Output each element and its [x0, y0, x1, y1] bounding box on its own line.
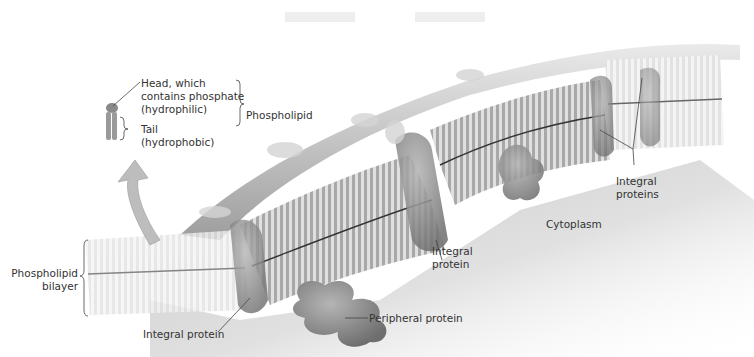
top-smudge	[285, 12, 355, 22]
curved-arrow-icon	[118, 160, 160, 245]
integral-proteins-right-leader-c	[633, 149, 634, 165]
bilayer-left	[85, 230, 250, 315]
label-head: Head, which contains phosphate (hydrophi…	[141, 77, 244, 116]
label-integral-protein-middle: Integral protein	[432, 245, 473, 271]
tail-bracket	[120, 117, 128, 140]
integral-protein-right-b	[640, 68, 660, 147]
phospholipid-icon	[106, 103, 118, 140]
label-integral-proteins-right: Integral proteins	[616, 175, 659, 201]
label-cytoplasm: Cytoplasm	[546, 218, 602, 231]
label-peripheral-protein: Peripheral protein	[369, 312, 463, 325]
top-smudge	[415, 12, 485, 22]
label-tail: Tail (hydrophobic)	[141, 123, 214, 149]
label-phospholipid-bilayer: Phospholipid bilayer	[8, 267, 78, 293]
label-integral-protein-bottom: Integral protein	[143, 328, 224, 341]
membrane-diagram: Head, which contains phosphate (hydrophi…	[0, 0, 754, 357]
head-leader-line	[113, 82, 140, 106]
label-phospholipid: Phospholipid	[246, 109, 313, 122]
